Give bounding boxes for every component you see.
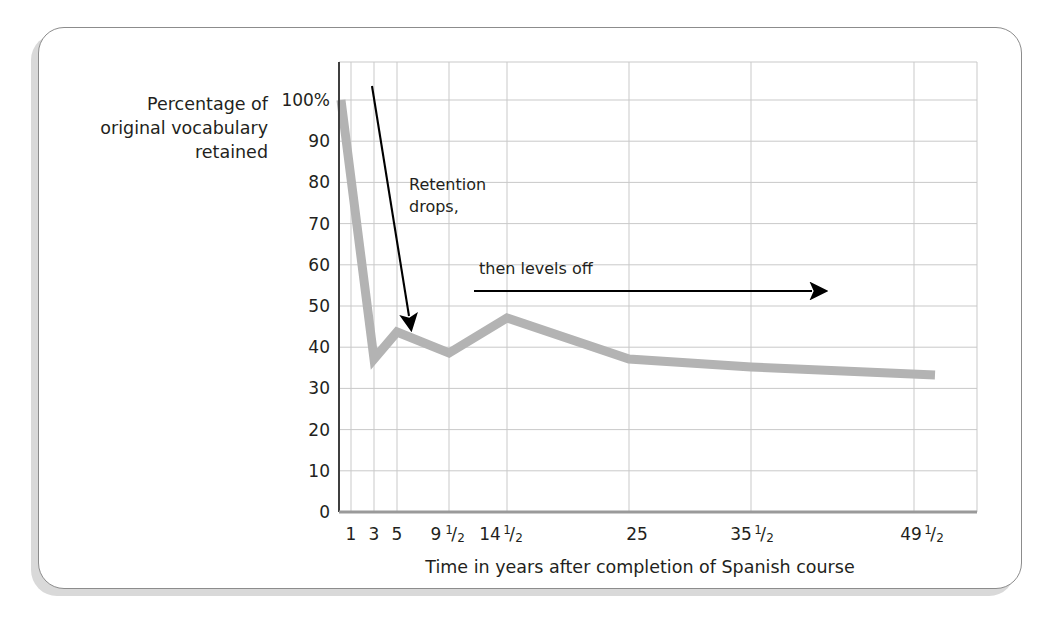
axes [339,62,977,512]
x-tick-label: 49 1 / 2 [900,523,944,545]
y-tick-label: 40 [308,337,330,357]
x-tick-frac-denominator: 2 [936,531,944,545]
y-tick-label: 0 [319,502,330,522]
y-axis-title-line: retained [195,142,268,162]
y-axis-title-line: original vocabulary [100,118,268,138]
x-axis-title: Time in years after completion of Spanis… [424,557,854,577]
y-tick-label: 10 [308,461,330,481]
x-tick-label: 1 [346,524,357,544]
x-tick-label: 25 [626,524,648,544]
figure-root: 100% 90 80 70 60 50 40 30 20 10 0 Percen… [0,0,1060,624]
x-tick-whole: 25 [626,524,648,544]
y-tick-label: 50 [308,296,330,316]
y-tick-label: 60 [308,255,330,275]
y-axis-tick-labels: 100% 90 80 70 60 50 40 30 20 10 0 [281,90,330,522]
x-tick-frac-denominator: 2 [457,531,465,545]
annotation-then-levels-off: then levels off [474,259,812,291]
annotation-line: drops, [409,197,459,216]
x-axis-tick-labels: 1 3 5 9 1 / 2 14 1 / 2 [346,523,944,545]
vertical-gridlines [351,62,914,512]
y-tick-label: 90 [308,131,330,151]
x-tick-label: 5 [392,524,403,544]
y-axis-title: Percentage of original vocabulary retain… [100,94,269,162]
x-tick-whole: 5 [392,524,403,544]
y-tick-label: 100% [281,90,330,110]
x-tick-label: 35 1 / 2 [730,523,774,545]
y-tick-label: 80 [308,172,330,192]
horizontal-gridlines [339,100,977,471]
annotation-line: Retention [409,175,486,194]
retention-drops-arrow-icon [372,86,409,316]
y-tick-label: 30 [308,378,330,398]
x-tick-label: 3 [369,524,380,544]
y-tick-label: 20 [308,420,330,440]
y-tick-label: 70 [308,214,330,234]
x-tick-frac-denominator: 2 [766,531,774,545]
x-tick-whole: 9 [431,524,442,544]
retention-line-chart: 100% 90 80 70 60 50 40 30 20 10 0 Percen… [0,0,1060,624]
y-axis-title-line: Percentage of [147,94,269,114]
x-tick-label: 9 1 / 2 [431,523,465,545]
x-tick-whole: 14 [479,524,501,544]
annotation-line: then levels off [479,259,594,278]
annotation-retention-drops: Retention drops, [372,86,486,316]
x-tick-whole: 35 [730,524,752,544]
x-tick-frac-denominator: 2 [515,531,523,545]
x-tick-whole: 49 [900,524,922,544]
x-tick-whole: 1 [346,524,357,544]
x-tick-label: 14 1 / 2 [479,523,523,545]
grid-lines [339,62,977,512]
x-tick-whole: 3 [369,524,380,544]
